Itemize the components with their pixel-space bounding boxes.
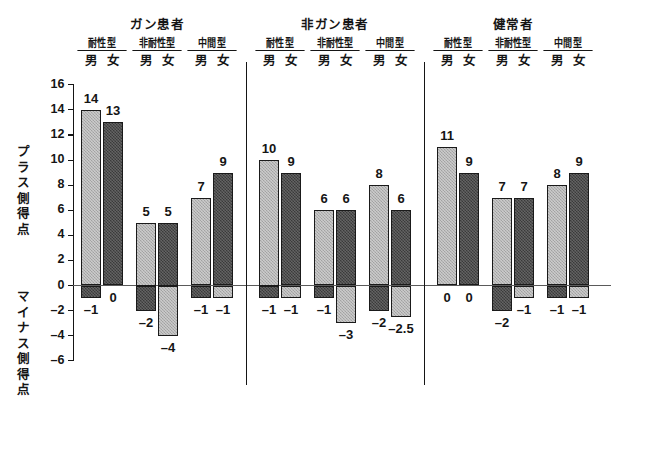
bar-positive — [547, 185, 567, 285]
subtype-label: 非耐性型 — [132, 34, 181, 51]
sex-label-female: 女 — [332, 50, 360, 69]
y-axis-tick — [68, 160, 74, 161]
sex-label-female: 女 — [277, 50, 305, 69]
bar-value-label-positive: 6 — [383, 191, 419, 206]
group-label-1: ガン患者 — [97, 14, 217, 33]
bar-positive — [213, 173, 233, 286]
sex-label-female: 女 — [565, 50, 593, 69]
y-axis-label-positive: プ ラ ス 側 得 点 — [16, 145, 31, 238]
subtype-label: 中間型 — [187, 34, 236, 51]
bar-negative — [314, 286, 334, 299]
bar-value-label-negative: 0 — [449, 290, 489, 305]
sex-label-female: 女 — [154, 50, 182, 69]
group-label-2: 非ガン患者 — [275, 14, 395, 33]
y-axis-tick-label: 12 — [27, 127, 65, 141]
bar-negative — [569, 286, 589, 299]
bar-negative — [259, 286, 279, 299]
subtype-label: 耐性型 — [77, 34, 126, 51]
bar-negative — [336, 286, 356, 324]
bar-positive — [569, 173, 589, 286]
y-axis-tick — [68, 210, 74, 211]
bar-value-label-negative: –2.5 — [381, 321, 421, 336]
group-label-3: 健常者 — [453, 14, 573, 33]
bar-negative — [191, 286, 211, 299]
bar-value-label-negative: –4 — [148, 340, 188, 355]
bar-positive — [158, 223, 178, 286]
subtype-label: 非耐性型 — [488, 34, 537, 51]
y-axis-tick-label: 2 — [27, 252, 65, 266]
bar-value-label-positive: 9 — [451, 154, 487, 169]
y-axis-tick — [68, 134, 74, 135]
bar-value-label-positive: 9 — [205, 154, 241, 169]
y-axis-tick-label: –6 — [27, 353, 65, 367]
y-axis-tick-label: 8 — [27, 177, 65, 191]
y-axis-tick-label: 10 — [27, 152, 65, 166]
sex-label-female: 女 — [209, 50, 237, 69]
bar-negative — [547, 286, 567, 299]
bar-negative — [213, 286, 233, 299]
sex-label-female: 女 — [99, 50, 127, 69]
y-axis-tick — [68, 185, 74, 186]
bar-positive — [281, 173, 301, 286]
subtype-label: 中間型 — [365, 34, 414, 51]
bar-positive — [492, 198, 512, 286]
bar-positive — [103, 122, 123, 285]
subtype-label: 耐性型 — [255, 34, 304, 51]
y-axis-tick — [68, 84, 74, 85]
bar-positive — [514, 198, 534, 286]
bar-value-label-negative: –1 — [559, 302, 599, 317]
bar-positive — [459, 173, 479, 286]
bar-value-label-positive: 13 — [95, 103, 131, 118]
y-axis-tick — [68, 235, 74, 236]
sex-label-female: 女 — [510, 50, 538, 69]
bar-positive — [81, 110, 101, 286]
bar-value-label-positive: 7 — [506, 179, 542, 194]
y-axis-tick — [68, 109, 74, 110]
y-axis-tick-label: 4 — [27, 227, 65, 241]
bar-negative — [281, 286, 301, 299]
bar-value-label-positive: 9 — [273, 154, 309, 169]
group-separator — [424, 62, 425, 385]
bar-value-label-negative: 0 — [93, 290, 133, 305]
bar-positive — [391, 210, 411, 285]
y-axis-tick — [68, 260, 74, 261]
sex-label-female: 女 — [455, 50, 483, 69]
subtype-label: 耐性型 — [433, 34, 482, 51]
bar-value-label-positive: 11 — [429, 128, 465, 143]
bar-negative — [369, 286, 389, 311]
bar-value-label-positive: 5 — [150, 204, 186, 219]
bar-negative — [391, 286, 411, 317]
bar-positive — [191, 198, 211, 286]
bar-positive — [136, 223, 156, 286]
y-axis-tick-label: 16 — [27, 77, 65, 91]
y-axis-tick — [68, 360, 74, 361]
subtype-label: 中間型 — [543, 34, 592, 51]
subtype-label: 非耐性型 — [310, 34, 359, 51]
bar-value-label-positive: 9 — [561, 154, 597, 169]
y-axis-label-negative: マ イ ナ ス 側 得 点 — [16, 290, 31, 399]
y-axis-line — [73, 85, 75, 361]
group-separator — [246, 62, 247, 385]
bar-positive — [336, 210, 356, 285]
chart-figure: ガン患者耐性型男女非耐性型男女中間型男女非ガン患者耐性型男女非耐性型男女中間型男… — [0, 0, 668, 449]
y-axis-tick — [68, 335, 74, 336]
bar-negative — [136, 286, 156, 311]
bar-positive — [314, 210, 334, 285]
y-axis-tick-label: 0 — [27, 278, 65, 292]
bar-value-label-positive: 8 — [361, 166, 397, 181]
bar-value-label-positive: 6 — [328, 191, 364, 206]
bar-negative — [158, 286, 178, 336]
y-axis-tick-label: –2 — [27, 303, 65, 317]
bar-value-label-negative: –1 — [203, 302, 243, 317]
y-axis-tick-label: 14 — [27, 102, 65, 116]
y-axis-tick-label: –4 — [27, 328, 65, 342]
bar-positive — [259, 160, 279, 286]
sex-label-female: 女 — [387, 50, 415, 69]
bar-negative — [514, 286, 534, 299]
y-axis-tick-label: 6 — [27, 202, 65, 216]
